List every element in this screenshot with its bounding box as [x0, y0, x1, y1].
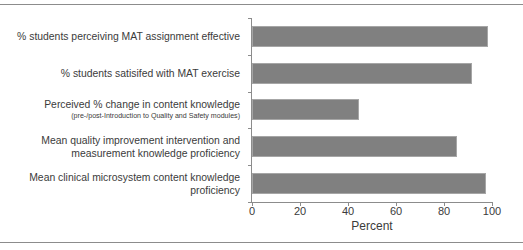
category-axis-labels: % students perceiving MAT assignment eff…: [0, 18, 246, 202]
category-label-text: Mean quality improvement intervention an…: [41, 134, 240, 160]
x-tick-label: 60: [390, 205, 402, 218]
bar-slot-3: [252, 128, 492, 165]
category-sublabel-text: (pre-/post-Introduction to Quality and S…: [71, 111, 240, 121]
bar-2: [252, 99, 359, 120]
x-tick-label: 80: [438, 205, 450, 218]
bar-0: [252, 26, 488, 47]
category-label-2: Perceived % change in content knowledge …: [0, 92, 246, 129]
bar-1: [252, 63, 472, 84]
bar-slot-0: [252, 18, 492, 55]
category-label-text: % students satisifed with MAT exercise: [61, 67, 240, 80]
x-tick-label: 40: [342, 205, 354, 218]
bar-4: [252, 173, 486, 194]
x-axis-tick-labels: 020406080100: [252, 205, 492, 219]
x-tick-label: 100: [483, 205, 501, 218]
bar-slot-4: [252, 165, 492, 202]
x-tick-label: 0: [249, 205, 255, 218]
bar-slot-1: [252, 55, 492, 92]
category-label-4: Mean clinical microsystem content knowle…: [0, 165, 246, 202]
x-axis-line: [251, 202, 492, 203]
category-label-1: % students satisifed with MAT exercise: [0, 55, 246, 92]
category-label-text: % students perceiving MAT assignment eff…: [17, 30, 240, 43]
bar-3: [252, 136, 457, 157]
bar-slot-2: [252, 92, 492, 129]
category-label-text: Mean clinical microsystem content knowle…: [29, 171, 240, 197]
category-label-0: % students perceiving MAT assignment eff…: [0, 18, 246, 55]
category-label-3: Mean quality improvement intervention an…: [0, 128, 246, 165]
x-tick-label: 20: [294, 205, 306, 218]
figure-bottom-rule: [0, 242, 523, 243]
x-axis-title: Percent: [252, 219, 492, 233]
plot-area: [252, 18, 492, 202]
bar-chart: % students perceiving MAT assignment eff…: [0, 5, 523, 241]
bar-series: [252, 18, 492, 202]
category-label-text: Perceived % change in content knowledge: [44, 98, 240, 111]
